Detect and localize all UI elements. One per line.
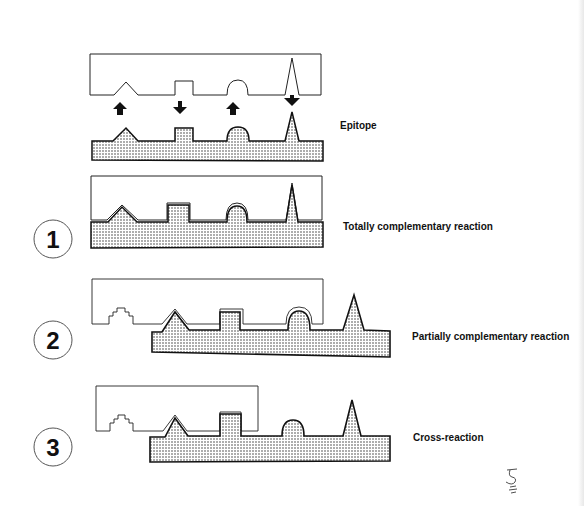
number-1: 1 (46, 226, 59, 253)
arrow-up-3-icon (226, 102, 240, 115)
number-badge-3: 3 (34, 428, 72, 466)
number-badge-1: 1 (34, 220, 72, 258)
panel-1-diagram (91, 176, 323, 248)
signature-mark (506, 469, 517, 493)
label-epitope: Epitope (340, 120, 377, 131)
diagram-canvas: 1 2 3 (0, 0, 584, 506)
number-3: 3 (46, 434, 59, 461)
label-totally-complementary: Totally complementary reaction (343, 221, 493, 232)
label-partially-complementary: Partially complementary reaction (412, 331, 569, 342)
number-2: 2 (46, 327, 59, 354)
panel-3-diagram (96, 386, 390, 462)
antigen-epitope (92, 112, 323, 161)
label-cross-reaction: Cross-reaction (413, 432, 484, 443)
panel-2-diagram (92, 279, 390, 357)
arrow-down-4-icon (284, 95, 300, 106)
arrow-down-2-icon (173, 101, 187, 114)
page-edge-shadow (578, 0, 584, 506)
arrow-up-1-icon (113, 102, 127, 115)
antibody-top (90, 54, 321, 95)
number-badge-2: 2 (34, 321, 72, 359)
